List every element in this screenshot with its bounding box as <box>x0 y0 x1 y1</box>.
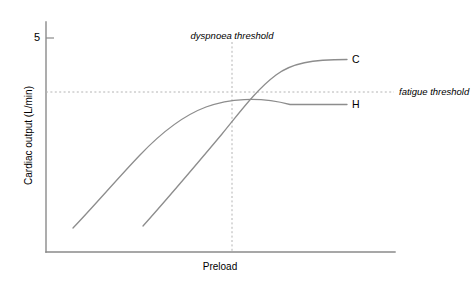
curve-h-heart-failure <box>73 99 347 228</box>
fatigue-threshold-label: fatigue threshold <box>399 86 469 97</box>
y-axis-tick-label-5: 5 <box>26 31 40 43</box>
dyspnoea-threshold-label: dyspnoea threshold <box>162 30 302 41</box>
cardiac-function-curve-figure: 5 Cardiac output (L/min) Preload C H dys… <box>0 0 476 282</box>
curve-label-c: C <box>352 53 360 65</box>
x-axis-title: Preload <box>170 261 270 272</box>
curve-label-h: H <box>352 98 360 110</box>
y-axis-title: Cardiac output (L/min) <box>23 56 34 216</box>
curve-c-control <box>143 60 347 227</box>
